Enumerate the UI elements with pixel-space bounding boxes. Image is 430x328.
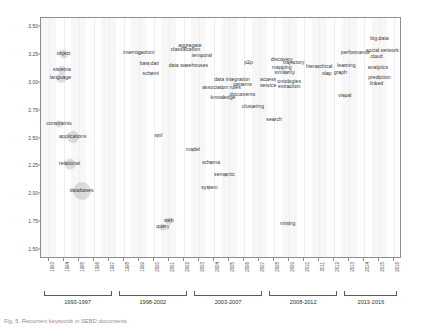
y-axis-tick-label: 2.25 xyxy=(28,162,38,168)
x-axis-tick-mark xyxy=(213,258,214,261)
x-axis-tick-mark xyxy=(258,258,259,261)
data-point-label: clustering xyxy=(242,105,264,110)
data-point-label: data warehouses xyxy=(169,63,209,68)
x-axis-tick-mark xyxy=(243,258,244,261)
y-axis-tick-label: 1.75 xyxy=(28,218,38,224)
gridline-vertical xyxy=(214,18,215,257)
x-axis-tick-mark xyxy=(273,258,274,261)
gridline-vertical xyxy=(49,18,50,257)
data-point-label: search xyxy=(266,117,282,122)
data-point-label: basi dati xyxy=(140,61,159,66)
gridline-vertical xyxy=(259,18,260,257)
x-axis-tick-mark xyxy=(198,258,199,261)
y-axis-tick-label: 3.00 xyxy=(28,79,38,85)
x-axis-tick-label: 1995 xyxy=(80,262,85,272)
data-point-label: mining xyxy=(280,222,295,227)
x-axis-tick-mark xyxy=(393,258,394,261)
x-axis-tick-label: 2013 xyxy=(350,262,355,272)
x-axis-tick-label: 2007 xyxy=(260,262,265,272)
figure-caption: Fig. 5. Recurrent keywords in SEBD docum… xyxy=(4,318,127,324)
gridline-vertical xyxy=(109,18,110,257)
x-axis-tick-label: 2004 xyxy=(215,262,220,272)
x-axis-tick-label: 2016 xyxy=(395,262,400,272)
x-axis-tick-mark xyxy=(138,258,139,261)
x-axis-tick-label: 2014 xyxy=(365,262,370,272)
period-bracket-label: 1998-2002 xyxy=(139,299,166,305)
x-axis-tick-label: 2015 xyxy=(380,262,385,272)
x-axis-tick-mark xyxy=(348,258,349,261)
data-point-label: interrogazioni xyxy=(123,50,154,55)
data-point-label: constraints xyxy=(47,121,72,126)
x-axis-tick-mark xyxy=(63,258,64,261)
data-point-label: linked xyxy=(370,81,384,86)
y-axis-tick-label: 3.50 xyxy=(28,23,38,29)
x-axis-tick-mark xyxy=(93,258,94,261)
x-axis-tick-label: 2003 xyxy=(200,262,205,272)
x-axis-tick-mark xyxy=(288,258,289,261)
x-axis-tick-mark xyxy=(378,258,379,261)
x-axis-tick-label: 2008 xyxy=(275,262,280,272)
gridline-vertical xyxy=(334,18,335,257)
data-point-label: databases xyxy=(70,188,94,193)
y-axis: 3.503.253.002.752.502.252.001.751.50 xyxy=(0,17,38,258)
x-axis-tick-mark xyxy=(108,258,109,261)
x-axis-tick-mark xyxy=(48,258,49,261)
data-point-label: language xyxy=(50,76,71,81)
gridline-vertical xyxy=(244,18,245,257)
gridline-vertical xyxy=(184,18,185,257)
data-point-label: similarity xyxy=(275,70,295,75)
x-axis-tick-label: 2000 xyxy=(155,262,160,272)
x-axis-tick-label: 2009 xyxy=(290,262,295,272)
x-axis-tick-mark xyxy=(228,258,229,261)
data-point-label: graph xyxy=(334,70,347,75)
x-axis: 1993199419951996199719981999200020012002… xyxy=(40,258,401,292)
period-bracket-label: 2008-2012 xyxy=(290,299,317,305)
data-point-label: big data xyxy=(370,37,388,42)
x-axis-tick-label: 2012 xyxy=(335,262,340,272)
y-axis-tick-label: 2.50 xyxy=(28,135,38,141)
data-point-label: model xyxy=(186,147,200,152)
data-point-label: system xyxy=(201,185,217,190)
data-point-label: hierarchical xyxy=(306,64,333,69)
period-bracket xyxy=(119,291,187,296)
data-point-label: schema xyxy=(202,160,220,165)
data-point-label: visual xyxy=(338,93,351,98)
plot-area: objectsistemalanguageinterrogazionibasi … xyxy=(40,17,401,258)
data-point-label: query xyxy=(156,224,169,229)
x-axis-tick-mark xyxy=(183,258,184,261)
data-point-label: object xyxy=(57,51,71,56)
y-axis-tick-label: 2.00 xyxy=(28,190,38,196)
x-axis-tick-label: 2001 xyxy=(170,262,175,272)
y-axis-tick-label: 1.50 xyxy=(28,246,38,252)
period-bracket xyxy=(44,291,112,296)
x-axis-tick-mark xyxy=(303,258,304,261)
period-bracket xyxy=(344,291,397,296)
y-axis-tick-label: 3.25 xyxy=(28,51,38,57)
y-axis-tick-label: 2.75 xyxy=(28,107,38,113)
x-axis-tick-mark xyxy=(123,258,124,261)
data-point-label: cloud xyxy=(370,54,382,59)
data-point-label: relational xyxy=(59,162,80,167)
x-axis-tick-label: 2005 xyxy=(230,262,235,272)
data-point-label: temporal xyxy=(192,53,212,58)
x-axis-tick-mark xyxy=(168,258,169,261)
x-axis-tick-label: 1997 xyxy=(110,262,115,272)
period-bracket-label: 2003-2007 xyxy=(215,299,242,305)
data-point-label: applications xyxy=(59,135,86,140)
x-axis-tick-label: 2006 xyxy=(245,262,250,272)
period-bracket-label: 1993-1997 xyxy=(64,299,91,305)
gridline-vertical xyxy=(274,18,275,257)
gridline-vertical xyxy=(94,18,95,257)
data-point-label: sistema xyxy=(53,68,71,73)
period-bracket xyxy=(194,291,262,296)
data-point-label: learning xyxy=(337,63,355,68)
data-point-label: schemi xyxy=(143,71,159,76)
x-axis-tick-mark xyxy=(363,258,364,261)
data-point-label: analytics xyxy=(368,66,388,71)
x-axis-tick-mark xyxy=(78,258,79,261)
data-point-label: extraction xyxy=(278,85,301,90)
period-bracket xyxy=(269,291,337,296)
period-brackets: 1993-19971998-20022003-20072008-20122013… xyxy=(40,291,401,311)
x-axis-tick-label: 1993 xyxy=(50,262,55,272)
x-axis-tick-label: 1994 xyxy=(65,262,70,272)
